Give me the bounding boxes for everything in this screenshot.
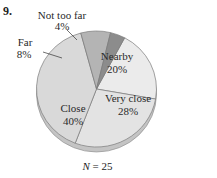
pie-slices xyxy=(37,31,157,147)
label-nearby-pct: 20% xyxy=(107,63,127,75)
label-far-pct: 8% xyxy=(17,48,32,60)
label-far: Far xyxy=(18,36,33,48)
label-very-close-pct: 28% xyxy=(118,105,138,117)
pie-chart: Nearby 20% Very close 28% Close 40% Far … xyxy=(0,0,217,178)
label-close-pct: 40% xyxy=(63,115,83,127)
label-not-too-far-pct: 4% xyxy=(55,20,70,32)
sample-size-label: N = 25 xyxy=(0,160,195,172)
label-nearby: Nearby xyxy=(101,50,134,62)
label-very-close: Very close xyxy=(105,92,151,104)
label-close: Close xyxy=(60,102,85,114)
